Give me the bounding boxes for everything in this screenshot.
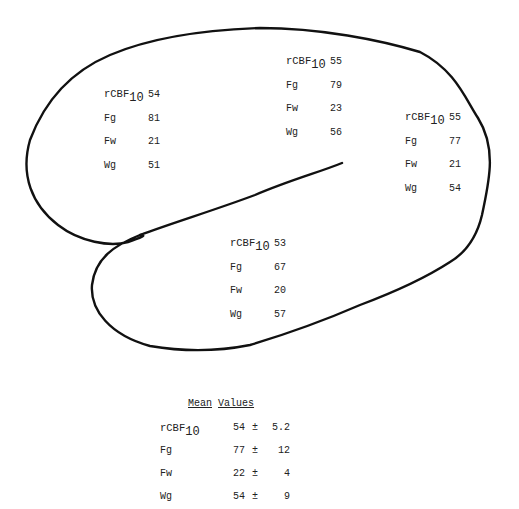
hemisphere-outline [26, 28, 489, 350]
plus-minus: ± [252, 468, 258, 479]
mean-row: Fg77±12 [160, 445, 360, 468]
row-label: Fw [405, 153, 417, 177]
mean-label: rCBF10 [160, 422, 200, 434]
row-label: rCBF10 [405, 106, 445, 130]
plus-minus: ± [252, 445, 258, 456]
row-label: Wg [230, 303, 242, 327]
row-label: Fg [405, 130, 417, 154]
mean-label: Fw [160, 468, 172, 479]
row-value: 21 [148, 130, 160, 154]
mean-row: Fw22±4 [160, 468, 360, 491]
row-value: 20 [274, 279, 286, 303]
mean-value: 77 [233, 445, 245, 456]
row-label: rCBF10 [104, 83, 144, 107]
mean-row: Wg54±9 [160, 491, 360, 509]
mean-value: 54 [233, 491, 245, 502]
row-label: Fg [104, 107, 116, 131]
row-value: 55 [330, 50, 342, 74]
row-label: Fw [286, 97, 298, 121]
row-label: Fw [104, 130, 116, 154]
row-value: 77 [449, 130, 461, 154]
sd-value: 12 [266, 445, 290, 456]
sd-value: 9 [266, 491, 290, 502]
row-label: Wg [286, 121, 298, 145]
row-value: 53 [274, 232, 286, 256]
mean-value: 54 [233, 422, 245, 433]
row-label: rCBF10 [286, 50, 326, 74]
row-value: 54 [449, 177, 461, 201]
row-value: 54 [148, 83, 160, 107]
mean-label: Wg [160, 491, 172, 502]
row-label: rCBF10 [230, 232, 270, 256]
plus-minus: ± [252, 422, 258, 433]
row-value: 67 [274, 256, 286, 280]
row-value: 51 [148, 154, 160, 178]
row-value: 79 [330, 74, 342, 98]
row-label: Wg [405, 177, 417, 201]
sd-value: 4 [266, 468, 290, 479]
row-value: 56 [330, 121, 342, 145]
mean-values-title: Mean Values [188, 398, 254, 409]
row-value: 57 [274, 303, 286, 327]
mean-row: rCBF1054±5.2 [160, 422, 360, 445]
sd-value: 5.2 [266, 422, 290, 433]
row-label: Fw [230, 279, 242, 303]
row-value: 21 [449, 153, 461, 177]
plus-minus: ± [252, 491, 258, 502]
row-value: 55 [449, 106, 461, 130]
mean-value: 22 [233, 468, 245, 479]
row-value: 81 [148, 107, 160, 131]
row-label: Wg [104, 154, 116, 178]
row-value: 23 [330, 97, 342, 121]
row-label: Fg [286, 74, 298, 98]
mean-label: Fg [160, 445, 172, 456]
row-label: Fg [230, 256, 242, 280]
